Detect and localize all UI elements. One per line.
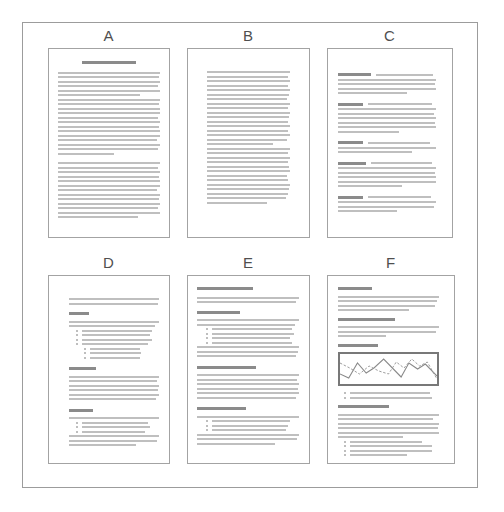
text-line-bar [69, 298, 159, 300]
bullet-item [84, 357, 159, 359]
text-line-bar [207, 148, 290, 150]
text-line-bar [207, 116, 289, 118]
text-line-bar [197, 443, 275, 445]
bullet-dot [206, 429, 208, 431]
text-line-bar [338, 418, 433, 420]
bullet-line-bar [212, 337, 290, 339]
text-line-bar [197, 438, 297, 440]
text-line-bar [58, 108, 160, 110]
text-line-bar [338, 331, 436, 333]
text-line-bar [197, 301, 296, 303]
bullet-item [76, 343, 159, 345]
text-line-bar [58, 176, 159, 178]
heading-bar [197, 407, 246, 410]
runin-heading-row [338, 103, 436, 106]
heading-bar [197, 311, 240, 314]
text-line-bar [197, 355, 296, 357]
text-line-bar [58, 144, 160, 146]
bullet-item [206, 337, 299, 339]
heading-bar [69, 409, 93, 412]
bullet-dot [76, 334, 78, 336]
runin-heading-bar [338, 162, 366, 165]
text-line-bar [338, 432, 439, 434]
bullet-line-bar [212, 342, 292, 344]
bullet-dot [76, 339, 78, 341]
text-line-bar [58, 112, 160, 114]
bullet-dot [76, 422, 78, 424]
bullet-item [76, 431, 159, 433]
bullet-line-bar [350, 445, 432, 447]
heading-bar [338, 344, 378, 347]
text-line-bar [207, 85, 288, 87]
bullet-item [206, 342, 299, 344]
text-line-bar [338, 300, 437, 302]
text-line-bar [69, 394, 159, 396]
bullet-dot [344, 392, 346, 394]
text-line-bar [58, 162, 160, 164]
page-thumbnail-f [327, 275, 455, 464]
text-line-bar [207, 134, 290, 136]
text-line-bar [207, 94, 289, 96]
text-line-bar [338, 126, 436, 128]
bullet-dot [206, 342, 208, 344]
text-line-bar [338, 117, 436, 119]
text-line-bar [207, 175, 287, 177]
bullet-dot [344, 397, 346, 399]
text-line-bar [207, 193, 288, 195]
text-line-bar [207, 121, 288, 123]
text-line-bar [338, 181, 436, 183]
page-label-e: E [187, 253, 310, 275]
bullet-item [76, 334, 159, 336]
page-label-c: C [327, 26, 453, 48]
text-line-bar [58, 135, 160, 137]
text-line-bar [197, 319, 299, 321]
bullet-line-bar [82, 343, 148, 345]
bullet-dot [76, 343, 78, 345]
bullet-line-bar [350, 441, 422, 443]
bullet-item [206, 425, 299, 427]
text-line-bar [197, 392, 299, 394]
bullet-dot [344, 441, 346, 443]
bullet-dot [84, 352, 86, 354]
text-line-bar [338, 206, 434, 208]
text-line-bar [338, 335, 386, 337]
text-line-bar [197, 379, 297, 381]
text-line-bar [197, 324, 295, 326]
runin-heading-row [338, 73, 436, 76]
bullet-dot [206, 337, 208, 339]
text-line-bar [58, 180, 160, 182]
text-line-bar [69, 385, 159, 387]
text-line-bar [58, 103, 159, 105]
runin-heading-bar [338, 73, 371, 76]
bullet-dot [344, 450, 346, 452]
text-line-bar [69, 380, 157, 382]
bullet-dot [344, 454, 346, 456]
bullet-dot [206, 420, 208, 422]
bullet-dot [206, 328, 208, 330]
heading-bar [69, 312, 89, 315]
text-line-bar [207, 170, 290, 172]
bullet-item [76, 426, 159, 428]
bullet-dot [344, 445, 346, 447]
text-line-bar [58, 212, 160, 214]
text-line-bar [207, 139, 287, 141]
text-line-bar [376, 74, 433, 76]
text-line-bar [197, 434, 299, 436]
text-line-bar [338, 108, 436, 110]
text-line-bar [58, 194, 160, 196]
text-line-bar [338, 131, 399, 133]
text-line-bar [338, 113, 434, 115]
page-label-d: D [48, 253, 170, 275]
bullet-item [76, 339, 159, 341]
bullet-dot [206, 333, 208, 335]
text-line-bar [338, 151, 412, 153]
text-line-bar [338, 414, 439, 416]
bullet-item [76, 330, 159, 332]
page-label-a: A [48, 26, 170, 48]
text-line-bar [197, 351, 298, 353]
bullet-item [344, 441, 439, 443]
text-line-bar [338, 210, 397, 212]
text-line-bar [207, 130, 288, 132]
text-line-bar [58, 216, 138, 218]
text-line-bar [58, 90, 160, 92]
